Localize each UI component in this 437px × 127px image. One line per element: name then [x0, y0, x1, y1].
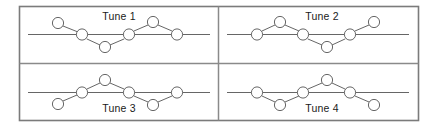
note-head	[52, 98, 63, 109]
tune-label-2: Tune 2	[305, 10, 339, 22]
tune-contour-figure: Tune 1 Tune 2	[0, 0, 437, 127]
note-head	[344, 29, 355, 40]
tune-label-1: Tune 1	[102, 10, 136, 22]
note-head	[321, 74, 332, 85]
note-head	[274, 16, 285, 27]
note-head	[368, 99, 379, 110]
panel-tune-2[interactable]: Tune 2	[227, 10, 409, 53]
note-head	[344, 87, 355, 98]
note-head	[171, 29, 182, 40]
note-head	[251, 87, 262, 98]
panel-tune-3[interactable]: Tune 3	[28, 74, 210, 114]
note-head	[147, 16, 158, 27]
note-head	[76, 87, 87, 98]
note-head	[123, 87, 134, 98]
note-head	[321, 41, 332, 52]
note-head	[297, 29, 308, 40]
tune-contour-svg: Tune 1 Tune 2	[0, 0, 437, 127]
tune-label-4: Tune 4	[305, 102, 339, 114]
panel-tune-1[interactable]: Tune 1	[28, 10, 210, 53]
tune-label-3: Tune 3	[102, 102, 136, 114]
note-head	[251, 29, 262, 40]
note-head	[297, 87, 308, 98]
panel-tune-4[interactable]: Tune 4	[227, 74, 409, 114]
note-head	[123, 29, 134, 40]
note-head	[274, 99, 285, 110]
note-head	[368, 16, 379, 27]
note-head	[147, 99, 158, 110]
note-head	[99, 41, 110, 52]
note-head	[76, 29, 87, 40]
note-head	[99, 74, 110, 85]
note-head	[171, 87, 182, 98]
note-head	[52, 17, 63, 28]
